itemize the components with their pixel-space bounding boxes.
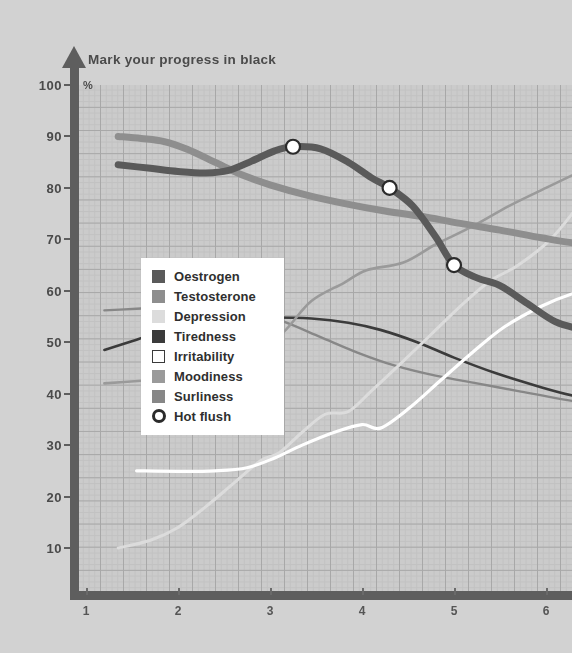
x-axis <box>70 591 572 600</box>
x-tick-label-2: 2 <box>166 604 190 618</box>
y-tick-30: 30 <box>0 438 62 452</box>
x-tick-mark-5 <box>454 588 456 595</box>
legend-swatch-irritability <box>152 350 165 363</box>
y-tick-70: 70 <box>0 232 62 246</box>
legend-item-tiredness[interactable]: Tiredness <box>152 326 275 346</box>
legend-item-label: Irritability <box>174 350 234 363</box>
legend-item-label: Surliness <box>174 390 233 403</box>
y-tick-mark <box>64 547 71 549</box>
y-tick-label: 20 <box>26 490 62 505</box>
y-tick-80: 80 <box>0 181 62 195</box>
x-tick-mark-2 <box>178 588 180 595</box>
chart-title: Mark your progress in black <box>88 52 276 67</box>
legend-swatch-hot-flush <box>152 409 166 423</box>
chart-legend: OestrogenTestosteroneDepressionTiredness… <box>141 258 284 435</box>
x-tick-label-1: 1 <box>74 604 98 618</box>
legend-swatch-testosterone <box>152 290 165 303</box>
y-tick-mark <box>64 238 71 240</box>
x-tick-mark-3 <box>270 588 272 595</box>
legend-item-label: Hot flush <box>174 410 231 423</box>
x-tick-mark-6 <box>546 588 548 595</box>
legend-item-label: Depression <box>174 310 246 323</box>
y-tick-mark <box>64 84 71 86</box>
legend-item-hot-flush[interactable]: Hot flush <box>152 406 275 426</box>
legend-item-label: Testosterone <box>174 290 256 303</box>
y-tick-mark <box>64 135 71 137</box>
y-tick-label: 60 <box>26 284 62 299</box>
y-tick-label: 40 <box>26 387 62 402</box>
y-tick-mark <box>64 393 71 395</box>
legend-item-oestrogen[interactable]: Oestrogen <box>152 266 275 286</box>
y-tick-mark <box>64 290 71 292</box>
y-tick-label: 10 <box>26 541 62 556</box>
legend-item-label: Moodiness <box>174 370 243 383</box>
y-tick-10: 10 <box>0 541 62 555</box>
y-tick-60: 60 <box>0 284 62 298</box>
percent-axis-label: % <box>83 79 93 91</box>
x-tick-mark-1 <box>86 588 88 595</box>
y-tick-label: 80 <box>26 181 62 196</box>
y-tick-40: 40 <box>0 387 62 401</box>
y-tick-label: 90 <box>26 129 62 144</box>
y-tick-mark <box>64 341 71 343</box>
y-tick-90: 90 <box>0 129 62 143</box>
y-tick-label: 30 <box>26 438 62 453</box>
y-tick-mark <box>64 496 71 498</box>
legend-item-irritability[interactable]: Irritability <box>152 346 275 366</box>
legend-item-label: Tiredness <box>174 330 236 343</box>
legend-swatch-surliness <box>152 390 165 403</box>
x-tick-label-6: 6 <box>534 604 558 618</box>
legend-swatch-depression <box>152 310 165 323</box>
y-tick-label: 50 <box>26 335 62 350</box>
legend-swatch-tiredness <box>152 330 165 343</box>
y-tick-label: 100 <box>26 78 62 93</box>
y-axis <box>70 62 79 597</box>
legend-swatch-oestrogen <box>152 270 165 283</box>
legend-item-label: Oestrogen <box>174 270 240 283</box>
x-tick-mark-4 <box>362 588 364 595</box>
y-tick-20: 20 <box>0 490 62 504</box>
legend-item-moodiness[interactable]: Moodiness <box>152 366 275 386</box>
y-tick-mark <box>64 444 71 446</box>
y-tick-mark <box>64 187 71 189</box>
chart-page: Mark your progress in black % 1020304050… <box>0 0 572 653</box>
y-axis-arrow-icon <box>62 46 86 68</box>
legend-item-testosterone[interactable]: Testosterone <box>152 286 275 306</box>
x-tick-label-3: 3 <box>258 604 282 618</box>
y-tick-50: 50 <box>0 335 62 349</box>
y-tick-label: 70 <box>26 232 62 247</box>
legend-item-depression[interactable]: Depression <box>152 306 275 326</box>
legend-swatch-moodiness <box>152 370 165 383</box>
legend-item-surliness[interactable]: Surliness <box>152 386 275 406</box>
x-tick-label-5: 5 <box>442 604 466 618</box>
y-tick-100: 100 <box>0 78 62 92</box>
x-tick-label-4: 4 <box>350 604 374 618</box>
